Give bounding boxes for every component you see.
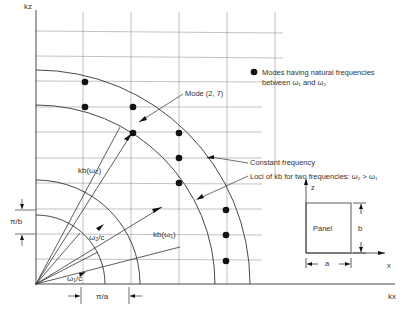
- rays: [36, 127, 180, 284]
- panel-label: Panel: [313, 224, 332, 234]
- kx-axis-label: kx: [388, 292, 396, 302]
- w1-over-c-label: ω₁/c: [67, 274, 82, 284]
- panel-width-label: a: [325, 259, 329, 269]
- mode-label: Mode (2, 7): [185, 89, 223, 99]
- pi-over-b-label: π/b: [10, 217, 22, 227]
- leader-lines: [139, 94, 248, 198]
- panel-height-label: b: [358, 224, 362, 234]
- axes: [35, 10, 395, 285]
- w2-over-c-label: ω₂/c: [89, 233, 105, 243]
- wavenumber-diagram: [0, 0, 411, 309]
- kz-axis-label: kz: [24, 2, 32, 12]
- legend-dot-label-line2: between ω₁ and ω₂: [262, 78, 326, 88]
- kb-w2-label: kb(ω₂): [78, 166, 101, 176]
- legend-dot-label-line1: Modes having natural frequencies: [262, 68, 375, 78]
- constant-frequency-label: Constant frequency: [250, 158, 315, 168]
- panel-x-axis-label: x: [387, 261, 391, 271]
- panel-z-axis-label: z: [311, 183, 315, 193]
- loci-label: Loci of kb for two frequencies: ω₂ > ω₁: [250, 172, 377, 182]
- kb-w1-label: kb(ω₁): [153, 230, 176, 240]
- dimension-marks: [15, 199, 142, 304]
- pi-over-a-label: π/a: [96, 292, 108, 302]
- arcs: [36, 70, 250, 284]
